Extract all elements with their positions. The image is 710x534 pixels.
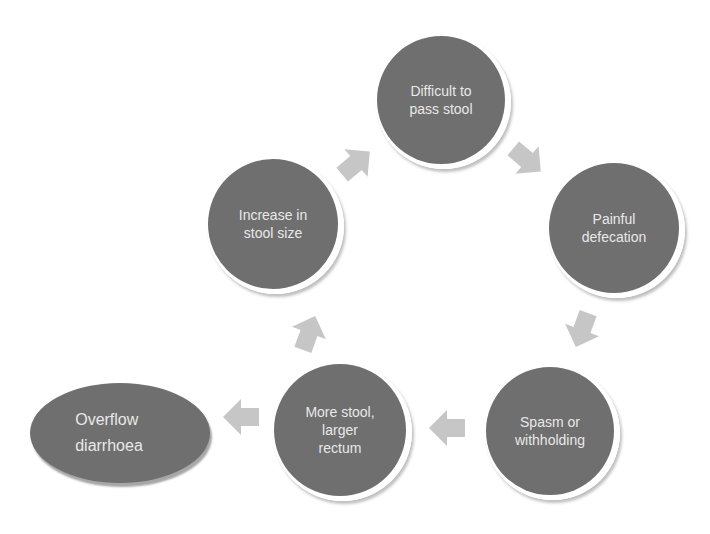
- node-label: More stool, larger rectum: [299, 403, 380, 457]
- node-label: Overflow diarrhoea: [69, 407, 149, 459]
- arrow-icon-painful-to-spasm: [556, 304, 607, 355]
- arrow-icon-more-stool-to-increase: [283, 307, 334, 358]
- node-more-stool-larger-rectum: More stool, larger rectum: [274, 364, 406, 496]
- arrow-icon-difficult-to-painful: [499, 132, 555, 188]
- arrow-icon-spasm-to-more-stool: [427, 408, 467, 448]
- cycle-diagram: Difficult to pass stool Painful defecati…: [0, 0, 710, 534]
- node-painful-defecation: Painful defecation: [549, 163, 679, 293]
- arrow-icon-increase-to-difficult: [328, 135, 384, 191]
- arrow-icon-more-stool-to-overflow: [221, 397, 261, 437]
- node-difficult-to-pass-stool: Difficult to pass stool: [377, 36, 505, 164]
- node-increase-in-stool-size: Increase in stool size: [208, 159, 338, 289]
- node-spasm-or-withholding: Spasm or withholding: [486, 367, 614, 495]
- node-label: Difficult to pass stool: [403, 82, 478, 118]
- node-label: Increase in stool size: [233, 206, 313, 242]
- node-overflow-diarrhoea: Overflow diarrhoea: [30, 383, 210, 483]
- node-label: Spasm or withholding: [509, 413, 591, 449]
- node-label: Painful defecation: [576, 210, 653, 246]
